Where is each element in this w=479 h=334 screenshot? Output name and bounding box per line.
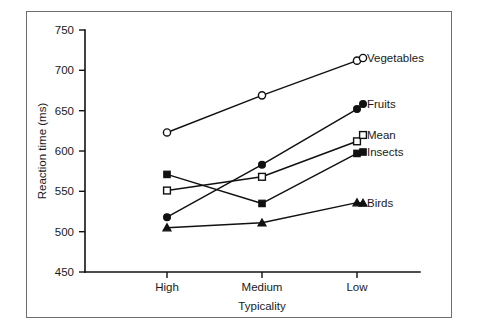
- legend-marker-mean: [360, 132, 367, 139]
- x-tick-label-high: High: [155, 281, 179, 293]
- x-axis-tick-labels: High Medium Low: [155, 281, 368, 293]
- data-point-mean-medium: [259, 173, 266, 180]
- data-point-fruits-medium: [259, 161, 266, 168]
- legend-marker-insects: [360, 149, 366, 155]
- series-label-birds: Birds: [367, 197, 393, 209]
- figure-root: 750 700 650 600 550 500 450 Reaction tim…: [0, 0, 479, 334]
- data-point-vegetables-high: [163, 129, 170, 136]
- series-label-vegetables: Vegetables: [367, 52, 424, 64]
- x-axis-title: Typicality: [238, 300, 286, 312]
- y-tick-label-550: 550: [55, 185, 74, 197]
- data-point-insects-medium: [259, 200, 265, 206]
- y-tick-label-750: 750: [55, 24, 74, 36]
- data-point-fruits-low: [354, 106, 361, 113]
- data-point-mean-high: [164, 187, 171, 194]
- series-layer: [163, 54, 367, 230]
- y-axis-title: Reaction time (ms): [36, 103, 48, 200]
- legend-marker-fruits: [360, 101, 367, 108]
- y-tick-label-600: 600: [55, 145, 74, 157]
- x-axis-ticks: [167, 272, 357, 278]
- data-point-vegetables-medium: [258, 92, 265, 99]
- y-axis-tick-labels: 750 700 650 600 550 500 450: [55, 24, 74, 278]
- y-tick-label-500: 500: [55, 226, 74, 238]
- legend-marker-vegetables: [359, 54, 366, 61]
- x-tick-label-low: Low: [346, 281, 368, 293]
- y-tick-label-650: 650: [55, 105, 74, 117]
- legend-inline: Vegetables Fruits Mean Insects Birds: [367, 52, 424, 209]
- data-point-insects-high: [164, 171, 170, 177]
- series-label-insects: Insects: [367, 146, 404, 158]
- data-point-fruits-high: [164, 214, 171, 221]
- line-chart: 750 700 650 600 550 500 450 Reaction tim…: [0, 0, 479, 334]
- y-axis-ticks: [79, 30, 85, 272]
- y-tick-label-700: 700: [55, 64, 74, 76]
- x-tick-label-medium: Medium: [242, 281, 283, 293]
- series-vegetables: [163, 54, 366, 136]
- series-label-fruits: Fruits: [367, 98, 396, 110]
- series-label-mean: Mean: [367, 129, 396, 141]
- y-tick-label-450: 450: [55, 266, 74, 278]
